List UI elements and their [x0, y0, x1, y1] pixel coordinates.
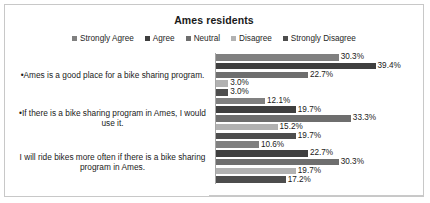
- category-group: I will ride bikes more often if there is…: [15, 140, 415, 184]
- bar-value-label: 19.7%: [296, 132, 321, 140]
- bar[interactable]: [216, 80, 228, 87]
- bar[interactable]: [216, 54, 339, 61]
- legend-swatch-icon: [186, 36, 191, 41]
- bar-row: 17.2%: [216, 176, 415, 183]
- category-label: •Ames is a good place for a bike sharing…: [15, 70, 215, 81]
- bar-row: 3.0%: [216, 89, 415, 96]
- category-group: •If there is a bike sharing program in A…: [15, 97, 415, 141]
- bar-row: 30.3%: [216, 159, 415, 166]
- bar[interactable]: [216, 115, 351, 122]
- legend-item-label: Strongly Agree: [80, 34, 134, 43]
- bar-row: 19.7%: [216, 106, 415, 113]
- bar[interactable]: [216, 124, 278, 131]
- bar[interactable]: [216, 89, 228, 96]
- category-label: •If there is a bike sharing program in A…: [15, 108, 215, 129]
- category-bars: 12.1%19.7%33.3%15.2%19.7%: [215, 97, 415, 141]
- bar-value-label: 19.7%: [296, 106, 321, 114]
- legend-swatch-icon: [283, 36, 288, 41]
- category-bars: 10.6%22.7%30.3%19.7%17.2%: [215, 140, 415, 184]
- legend-swatch-icon: [231, 36, 236, 41]
- legend-swatch-icon: [72, 36, 77, 41]
- bar[interactable]: [216, 63, 376, 70]
- bar[interactable]: [216, 150, 308, 157]
- legend-item-label: Neutral: [194, 34, 220, 43]
- bar[interactable]: [216, 106, 296, 113]
- bar-value-label: 3.0%: [228, 88, 249, 96]
- bar-value-label: 22.7%: [308, 71, 333, 79]
- bar[interactable]: [216, 159, 339, 166]
- bar[interactable]: [216, 141, 259, 148]
- bar-row: 22.7%: [216, 72, 415, 79]
- bar[interactable]: [216, 98, 265, 105]
- bar-value-label: 19.7%: [296, 167, 321, 175]
- bar-value-label: 22.7%: [308, 149, 333, 157]
- bar-row: 39.4%: [216, 63, 415, 70]
- legend-item[interactable]: Disagree: [231, 34, 272, 43]
- legend-item[interactable]: Strongly Agree: [72, 34, 134, 43]
- bar-row: 30.3%: [216, 54, 415, 61]
- bar-row: 33.3%: [216, 115, 415, 122]
- category-group: •Ames is a good place for a bike sharing…: [15, 53, 415, 97]
- chart-container: Ames residents Strongly AgreeAgreeNeutra…: [4, 4, 424, 197]
- plot-area: •Ames is a good place for a bike sharing…: [15, 53, 415, 182]
- legend-item[interactable]: Strongly Disagree: [283, 34, 356, 43]
- bar-value-label: 30.3%: [339, 53, 364, 61]
- legend-item-label: Agree: [153, 34, 175, 43]
- legend-item-label: Strongly Disagree: [291, 34, 356, 43]
- axis-baseline: [209, 195, 423, 196]
- legend-swatch-icon: [145, 36, 150, 41]
- bar-value-label: 30.3%: [339, 158, 364, 166]
- bar[interactable]: [216, 133, 296, 140]
- bar-value-label: 33.3%: [351, 114, 376, 122]
- bar-row: 10.6%: [216, 141, 415, 148]
- chart-legend: Strongly AgreeAgreeNeutralDisagreeStrong…: [5, 34, 423, 43]
- category-bars: 30.3%39.4%22.7%3.0%3.0%: [215, 53, 415, 97]
- legend-item-label: Disagree: [239, 34, 272, 43]
- bar-row: 19.7%: [216, 168, 415, 175]
- bar[interactable]: [216, 72, 308, 79]
- legend-item[interactable]: Neutral: [186, 34, 220, 43]
- bar-row: 22.7%: [216, 150, 415, 157]
- bar-row: 3.0%: [216, 80, 415, 87]
- legend-item[interactable]: Agree: [145, 34, 175, 43]
- bar-row: 19.7%: [216, 133, 415, 140]
- bar-value-label: 17.2%: [286, 176, 311, 184]
- bar-value-label: 39.4%: [376, 62, 401, 70]
- category-label: I will ride bikes more often if there is…: [15, 152, 215, 173]
- bar[interactable]: [216, 176, 286, 183]
- bar-row: 15.2%: [216, 124, 415, 131]
- chart-title: Ames residents: [5, 14, 423, 26]
- bar-value-label: 10.6%: [259, 141, 284, 149]
- bar-value-label: 12.1%: [265, 97, 290, 105]
- bar-row: 12.1%: [216, 98, 415, 105]
- bar[interactable]: [216, 168, 296, 175]
